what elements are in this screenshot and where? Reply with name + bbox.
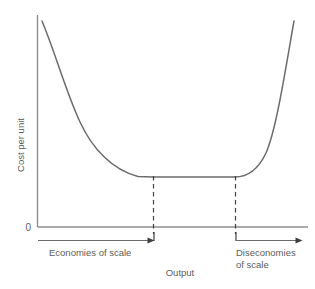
cost-curve-figure: Cost per unit 0 Economies of scale Disec… bbox=[0, 0, 315, 289]
y-axis-title: Cost per unit bbox=[15, 118, 26, 172]
economies-of-scale-label: Economies of scale bbox=[49, 247, 131, 258]
origin-zero-label: 0 bbox=[25, 222, 31, 233]
chart-background bbox=[0, 0, 315, 289]
x-axis-title: Output bbox=[166, 267, 195, 278]
chart-canvas: Cost per unit 0 Economies of scale Disec… bbox=[0, 0, 315, 289]
diseconomies-of-scale-label-line2: of scale bbox=[236, 259, 269, 270]
diseconomies-of-scale-label-line1: Diseconomies bbox=[236, 247, 296, 258]
